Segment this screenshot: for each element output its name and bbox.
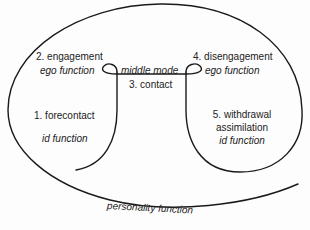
label-assimilation: assimilation [202,122,282,134]
contact-cycle-diagram: 2. engagement ego function middle mode 3… [0,0,310,230]
label-withdrawal: 5. withdrawal [202,109,282,121]
label-middle-mode: middle mode [121,65,178,77]
label-withdrawal-function: id function [202,135,282,147]
outer-curve [8,4,302,207]
label-engagement-function: ego function [40,65,95,77]
label-engagement: 2. engagement [36,51,103,63]
right-knot [186,64,201,74]
label-disengagement-function: ego function [205,65,260,77]
label-contact: 3. contact [129,79,172,91]
label-disengagement: 4. disengagement [193,51,273,63]
label-forecontact: 1. forecontact [34,110,95,122]
left-knot [103,64,117,74]
label-forecontact-function: id function [42,133,88,145]
